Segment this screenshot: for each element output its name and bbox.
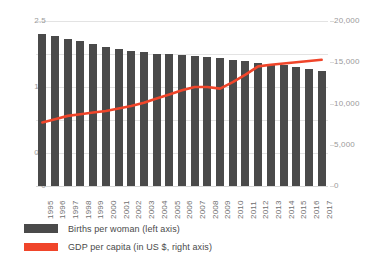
x-axis-tick-label: 2013 <box>274 200 283 219</box>
y-axis-right-tick-label: 10,000 <box>334 100 378 108</box>
y-axis-right-tick-label: 20,000 <box>334 17 378 25</box>
x-axis-tick-label: 2016 <box>312 200 321 219</box>
y-axis-right-tick-label: 15,000 <box>334 58 378 66</box>
x-axis-tick-label: 2015 <box>299 200 308 219</box>
x-axis-tick-label: 2005 <box>173 200 182 219</box>
x-axis-tick-label: 1995 <box>46 200 55 219</box>
chart-container: 00.511.522.505,00010,00015,00020,000 199… <box>0 0 379 267</box>
x-axis-tick-label: 2004 <box>160 200 169 219</box>
x-axis-tick-label: 2000 <box>109 200 118 219</box>
x-axis-tick-label: 1997 <box>71 200 80 219</box>
legend-label-gdp-per-capita: GDP per capita (in US $, right axis) <box>68 242 212 252</box>
x-axis-tick-label: 2012 <box>261 200 270 219</box>
line-series-gdp-per-capita <box>36 21 328 186</box>
x-axis-tick-label: 2008 <box>211 200 220 219</box>
x-axis-tick-label: 2017 <box>325 200 334 219</box>
x-axis-tick-label: 2010 <box>236 200 245 219</box>
legend-label-births-per-woman: Births per woman (left axis) <box>68 224 180 234</box>
legend-item-births-per-woman: Births per woman (left axis) <box>24 221 212 236</box>
x-axis-tick-label: 1996 <box>58 200 67 219</box>
gridline <box>36 186 328 187</box>
x-axis-tick-label: 2001 <box>122 200 131 219</box>
x-axis-tick-label: 2007 <box>198 200 207 219</box>
plot-area <box>36 21 328 186</box>
x-axis-tick-label: 2009 <box>223 200 232 219</box>
x-axis-tick-label: 2002 <box>134 200 143 219</box>
x-axis-tick-label: 2011 <box>249 201 258 219</box>
y-axis-right-tick-label: 5,000 <box>334 141 378 149</box>
x-axis-tick-label: 1998 <box>84 200 93 219</box>
x-axis-labels: 1995199619971998199920002001200220032004… <box>36 189 328 221</box>
x-axis-tick-label: 1999 <box>96 200 105 219</box>
x-axis-tick-label: 2014 <box>287 200 296 219</box>
x-axis-tick-label: 2003 <box>147 200 156 219</box>
legend-swatch-line-icon <box>24 243 58 251</box>
y-axis-right-tick-label: 0 <box>334 182 378 190</box>
legend-item-gdp-per-capita: GDP per capita (in US $, right axis) <box>24 239 212 254</box>
x-axis-tick-label: 2006 <box>185 200 194 219</box>
legend-swatch-bar-icon <box>24 224 58 233</box>
chart-legend: Births per woman (left axis) GDP per cap… <box>24 221 212 257</box>
